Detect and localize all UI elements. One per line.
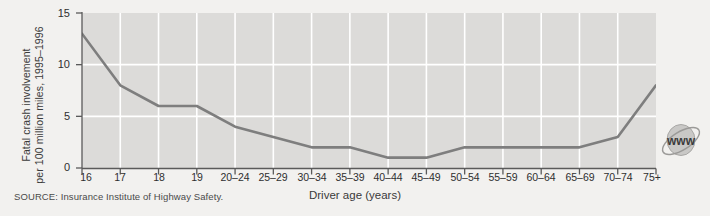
y-tick-label-15: 15 (42, 7, 70, 19)
x-tick-label-25-29: 25–29 (258, 171, 287, 183)
x-tick-label-45-49: 45–49 (411, 171, 440, 183)
x-tick-label-75plus: 75+ (643, 171, 661, 183)
x-tick-label-18: 18 (153, 171, 165, 183)
data-series-line (82, 34, 656, 158)
globe-www-icon: www (658, 116, 706, 168)
x-tick-label-60-64: 60–64 (526, 171, 555, 183)
y-axis-title-line1: Fatal crash involvement (20, 20, 33, 190)
x-tick-label-70-74: 70–74 (603, 171, 632, 183)
x-tick-label-17: 17 (114, 171, 126, 183)
x-tick-label-35-39: 35–39 (335, 171, 364, 183)
source-note: SOURCE: Insurance Institute of Highway S… (14, 191, 223, 202)
gridlines-vertical (120, 13, 617, 168)
www-label: www (666, 134, 696, 148)
y-tick-label-10: 10 (42, 58, 70, 70)
x-tick-label-16: 16 (80, 171, 92, 183)
x-tick-label-30-34: 30–34 (297, 171, 326, 183)
x-tick-label-55-59: 55–59 (488, 171, 517, 183)
x-tick-label-20-24: 20–24 (220, 171, 249, 183)
plot-area (82, 13, 656, 168)
x-tick-label-40-44: 40–44 (373, 171, 402, 183)
line-chart-svg (82, 13, 656, 168)
x-tick-label-19: 19 (191, 171, 203, 183)
y-tick-label-0: 0 (42, 161, 70, 173)
gridlines-horizontal (82, 65, 656, 117)
x-tick-label-50-54: 50–54 (450, 171, 479, 183)
chart-figure: Fatal crash involvement per 100 million … (0, 0, 710, 216)
y-tick-label-5: 5 (42, 110, 70, 122)
x-tick-label-65-69: 65–69 (565, 171, 594, 183)
